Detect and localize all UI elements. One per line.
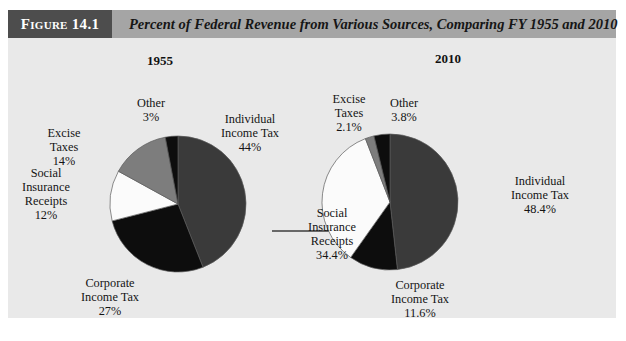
label-excise-taxes-2010: Excise Taxes 2.1% (318, 92, 380, 134)
label-line: Insurance (308, 220, 356, 234)
label-pct: 11.6% (366, 306, 474, 320)
label-individual-income-tax-1955: Individual Income Tax 44% (198, 112, 302, 154)
figure-panel: Figure 14.1 Percent of Federal Revenue f… (8, 10, 616, 318)
label-pct: 34.4% (288, 248, 376, 262)
label-line: Individual (225, 112, 276, 126)
label-pct: 48.4% (488, 202, 592, 216)
label-social-insurance-receipts-2010: Social Insurance Receipts 34.4% (288, 206, 376, 262)
label-line: Income Tax (221, 126, 279, 140)
label-line: Excise (333, 92, 366, 106)
label-line: Receipts (311, 234, 353, 248)
label-line: Taxes (50, 140, 79, 154)
label-pct: 3% (116, 110, 186, 124)
label-pct: 3.8% (376, 110, 432, 124)
pie-chart-1955: 1955 Excise Taxes 14% Other 3% Individua… (8, 38, 312, 318)
pie-slice-individual-income-tax (390, 134, 458, 270)
label-line: Individual (515, 174, 566, 188)
label-pct: 2.1% (318, 120, 380, 134)
chart-year-label-1955: 1955 (8, 53, 312, 69)
label-line: Excise (48, 126, 81, 140)
label-line: Receipts (25, 194, 67, 208)
label-social-insurance-receipts-1955: Social Insurance Receipts 12% (2, 166, 90, 222)
label-pct: 12% (2, 208, 90, 222)
label-other-1955: Other 3% (116, 96, 186, 124)
label-excise-taxes-1955: Excise Taxes 14% (24, 126, 104, 168)
pie-chart-2010: 2010 Excise Taxes 2.1% Other 3.8% Indivi… (312, 38, 616, 318)
label-line: Other (137, 96, 165, 110)
chart-area: 1955 Excise Taxes 14% Other 3% Individua… (8, 38, 616, 318)
label-line: Income Tax (81, 290, 139, 304)
label-other-2010: Other 3.8% (376, 96, 432, 124)
label-line: Taxes (335, 106, 364, 120)
figure-number-box: Figure 14.1 (8, 10, 112, 38)
label-individual-income-tax-2010: Individual Income Tax 48.4% (488, 174, 592, 216)
label-line: Corporate (85, 276, 134, 290)
label-corporate-income-tax-2010: Corporate Income Tax 11.6% (366, 278, 474, 320)
label-line: Insurance (22, 180, 70, 194)
label-corporate-income-tax-1955: Corporate Income Tax 27% (56, 276, 164, 318)
label-line: Social (31, 166, 62, 180)
label-line: Social (317, 206, 348, 220)
figure-title: Percent of Federal Revenue from Various … (112, 10, 617, 38)
pie-svg-1955 (108, 134, 248, 274)
figure-number-label: Figure 14.1 (21, 16, 100, 33)
label-pct: 44% (198, 140, 302, 154)
figure-screenshot: Figure 14.1 Percent of Federal Revenue f… (0, 0, 626, 341)
label-line: Other (390, 96, 418, 110)
label-line: Corporate (395, 278, 444, 292)
label-line: Income Tax (511, 188, 569, 202)
figure-header: Figure 14.1 Percent of Federal Revenue f… (8, 10, 616, 38)
label-line: Income Tax (391, 292, 449, 306)
label-pct: 27% (56, 304, 164, 318)
chart-year-label-2010: 2010 (296, 51, 600, 67)
